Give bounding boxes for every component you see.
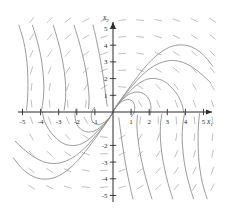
direction-field-dash	[157, 100, 160, 106]
direction-field-dash	[193, 84, 197, 90]
direction-field-dash	[119, 53, 126, 54]
direction-field-dash	[100, 187, 107, 188]
direction-field-dash	[30, 34, 34, 40]
direction-field-dash	[48, 134, 52, 140]
phase-portrait-canvas: -5-4-3-2-11234554321-2-3-4-5 x1 x2	[0, 0, 236, 215]
direction-field-dash	[174, 184, 178, 189]
y-tick-label: 4	[104, 42, 108, 50]
direction-field-dash	[101, 85, 107, 89]
direction-field-dash	[48, 67, 51, 73]
direction-field-layer	[29, 17, 216, 190]
direction-field-dash	[31, 67, 33, 74]
direction-field-dash	[119, 169, 126, 171]
trajectory-curve	[182, 114, 193, 199]
direction-field-dash	[140, 117, 141, 124]
direction-field-dash	[30, 117, 32, 124]
direction-field-dash	[83, 35, 89, 39]
direction-field-dash	[175, 151, 178, 157]
direction-field-dash	[31, 100, 32, 107]
x-tick-label: -2	[74, 118, 80, 126]
trajectory-curve	[198, 114, 207, 199]
direction-field-dash	[119, 186, 126, 188]
x-tick-label: 4	[184, 118, 188, 126]
direction-field-dash	[31, 83, 32, 90]
direction-field-dash	[119, 135, 125, 139]
direction-field-dash	[29, 17, 33, 22]
direction-field-dash	[29, 168, 34, 172]
direction-field-dash	[65, 35, 70, 40]
x-tick-label: 3	[166, 118, 170, 126]
direction-field-dash	[174, 68, 179, 73]
direction-field-dash	[83, 19, 89, 22]
direction-field-dash	[65, 152, 71, 156]
direction-field-dash	[155, 68, 161, 72]
direction-field-dash	[47, 169, 53, 173]
direction-field-dash	[173, 19, 180, 21]
direction-field-dash	[47, 18, 52, 23]
direction-field-dash	[84, 84, 88, 90]
direction-field-dash	[173, 35, 179, 38]
direction-field-dash	[211, 84, 214, 90]
direction-field-dash	[119, 20, 126, 21]
direction-field-dash	[119, 36, 126, 37]
direction-field-dash	[47, 151, 52, 156]
direction-field-dash	[30, 50, 33, 56]
direction-field-dash	[66, 67, 70, 73]
y-tick-label: 5	[104, 25, 108, 33]
direction-field-dash	[82, 170, 89, 171]
direction-field-dash	[49, 100, 50, 107]
direction-field-dash	[119, 87, 126, 88]
direction-field-dash	[48, 51, 52, 57]
direction-field-dash	[193, 150, 195, 157]
x-tick-label: 1	[129, 118, 133, 126]
direction-field-dash	[85, 100, 86, 107]
direction-field-dash	[156, 185, 161, 190]
direction-field-dash	[66, 117, 69, 123]
direction-field-dash	[193, 184, 197, 190]
direction-field-dash	[30, 134, 34, 140]
direction-field-dash	[67, 84, 69, 91]
direction-field-dash	[82, 187, 89, 188]
direction-field-dash	[191, 19, 197, 22]
direction-field-dash	[210, 51, 215, 56]
direction-field-dash	[192, 35, 198, 39]
y-tick-label: -2	[102, 142, 108, 150]
direction-field-dash	[101, 52, 108, 54]
direction-field-dash	[210, 18, 216, 22]
direction-field-dash	[212, 100, 214, 107]
direction-field-dash	[138, 101, 142, 107]
y-tick-label: 3	[104, 58, 108, 66]
direction-field-dash	[101, 36, 108, 38]
direction-field-dash	[193, 100, 195, 107]
trajectory-curve	[114, 45, 213, 110]
y-axis-arrow-icon	[110, 22, 115, 28]
direction-field-dash	[84, 117, 88, 123]
direction-field-dash	[137, 36, 144, 37]
direction-field-dash	[64, 186, 71, 188]
direction-field-dash	[174, 168, 178, 174]
direction-field-dash	[29, 185, 35, 189]
direction-field-dash	[48, 117, 50, 124]
y-tick-label: 2	[104, 75, 108, 83]
direction-field-dash	[83, 135, 89, 139]
direction-field-dash	[83, 52, 89, 56]
direction-field-dash	[137, 85, 143, 89]
direction-field-dash	[173, 52, 179, 56]
direction-field-dash	[194, 134, 195, 141]
x-axis-arrow-icon	[206, 109, 212, 114]
direction-field-dash	[175, 100, 177, 107]
x-tick-label: 2	[147, 118, 151, 126]
trajectory-curve	[114, 60, 211, 110]
trajectory-curve	[19, 25, 28, 110]
trajectory-curve	[32, 25, 43, 110]
x-tick-label: -1	[92, 118, 98, 126]
direction-field-dash	[156, 84, 161, 89]
direction-field-dash	[156, 151, 160, 157]
direction-field-dash	[211, 167, 213, 174]
x-tick-label: -4	[38, 118, 44, 126]
direction-field-dash	[137, 168, 143, 172]
direction-field-dash	[100, 137, 107, 138]
direction-field-dash	[65, 135, 70, 140]
x-tick-label: 5	[202, 118, 206, 126]
x-tick-label: -5	[20, 118, 26, 126]
